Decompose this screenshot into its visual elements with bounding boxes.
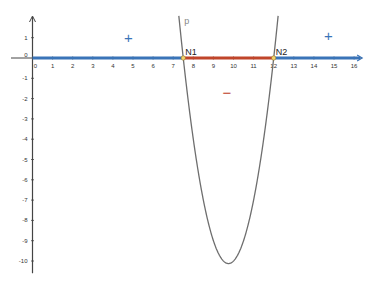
minus-sign-middle: −: [222, 84, 231, 101]
y-tick-label: -8: [22, 217, 28, 223]
x-tick-label: 8: [192, 63, 196, 69]
x-tick-label: 13: [290, 63, 297, 69]
root-point-label: N1: [185, 47, 197, 57]
x-tick-label: 5: [131, 63, 135, 69]
x-tick-label: 16: [351, 63, 358, 69]
plus-sign-right: +: [324, 27, 333, 44]
x-tick-label: 0: [34, 63, 38, 69]
plus-sign-left: +: [124, 29, 133, 46]
x-tick-label: 15: [331, 63, 338, 69]
x-tick-label: 9: [212, 63, 216, 69]
y-tick-label: -10: [19, 258, 28, 264]
x-tick-label: 11: [250, 63, 257, 69]
y-tick-label: -7: [22, 197, 28, 203]
tick-labels: 01234567891011121314151610-1-2-3-4-5-6-7…: [19, 35, 358, 264]
y-tick-label: 0: [24, 52, 28, 58]
y-tick-label: 1: [24, 35, 28, 41]
y-tick-label: -4: [22, 136, 28, 142]
sign-intervals: [33, 55, 363, 61]
x-tick-label: 14: [311, 63, 318, 69]
y-tick-label: -2: [22, 96, 28, 102]
curve-label-p: p: [184, 16, 189, 26]
x-tick-label: 12: [270, 63, 277, 69]
function-graph: 01234567891011121314151610-1-2-3-4-5-6-7…: [0, 0, 377, 287]
x-tick-label: 6: [151, 63, 155, 69]
x-tick-label: 3: [91, 63, 95, 69]
x-tick-label: 10: [230, 63, 237, 69]
y-tick-label: -1: [22, 75, 28, 81]
y-tick-label: -5: [22, 157, 28, 163]
y-tick-label: -3: [22, 116, 28, 122]
y-tick-label: -6: [22, 177, 28, 183]
x-tick-label: 4: [111, 63, 115, 69]
x-tick-label: 7: [172, 63, 176, 69]
root-point-label: N2: [276, 47, 288, 57]
x-tick-label: 2: [71, 63, 75, 69]
x-tick-label: 1: [51, 63, 55, 69]
y-tick-label: -9: [22, 238, 28, 244]
